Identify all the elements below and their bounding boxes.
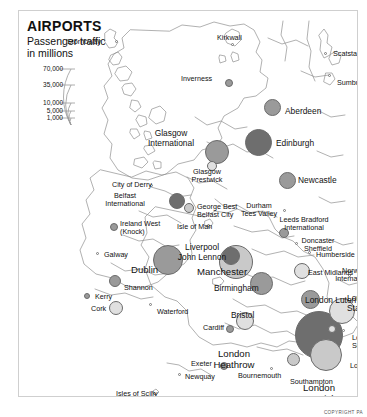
airport-marker-sumburgh[interactable] [328,74,331,77]
airport-label-edinburgh: Edinburgh [276,139,314,149]
airport-label-manchester: Manchester [197,267,247,278]
airport-label-dublin: Dublin [131,265,158,276]
airport-label-cork: Cork [91,305,106,313]
airport-label-cardiff: Cardiff [203,324,224,332]
airport-label-isles-of-scilly: Isles of Scilly [116,390,158,397]
airport-label-ireland-west-knock: Ireland West(Knock) [120,220,160,236]
airports-map-page: AIRPORTS Passenger traffic in millions [0,0,367,417]
airport-label-newcastle: Newcastle [298,176,337,186]
airport-label-kirkwall: Kirkwall [217,34,242,42]
map-frame: AIRPORTS Passenger traffic in millions [18,10,358,397]
airport-label-newquay: Newquay [185,373,215,381]
airport-label-glasgow-international: GlasgowInternational [126,129,216,148]
airport-marker-belfast-international[interactable] [169,193,185,209]
copyright-notice: COPYRIGHT PA [324,410,363,415]
airport-label-bristol: Bristol [231,311,254,321]
airport-label-southampton: Southampton [290,378,333,386]
airport-marker-george-best-belfast-city[interactable] [184,203,194,213]
airport-label-bournemouth: Bournemouth [238,372,281,380]
airport-label-london-southend: LondonSouthend [352,334,358,350]
airport-label-humberside: Humberside [316,251,355,259]
airport-label-sumburgh: Sumburgh [337,79,358,87]
airport-label-glasgow-prestwick: GlasgowPrestwick [162,168,252,184]
airport-label-isle-of-man: Isle of Man [177,223,212,231]
airport-marker-aberdeen[interactable] [264,99,281,116]
airport-label-city-of-derry: City of Derry [112,181,152,189]
airport-label-london-city: London City [350,362,358,370]
legend-label-70000: 70,000 [19,66,63,73]
airport-label-birmingham: Birmingham [214,284,259,294]
airport-label-aberdeen: Aberdeen [285,107,321,117]
airport-label-waterford: Waterford [157,308,188,316]
airport-label-kerry: Kerry [95,293,112,301]
airport-marker-cardiff[interactable] [226,325,234,333]
airport-label-belfast-international: BelfastInternational [80,192,170,208]
legend-label-35000: 35,000 [19,82,63,89]
legend-label-1000: 1,000 [19,115,63,122]
airport-label-inverness: Inverness [181,75,212,83]
airport-marker-london-southend[interactable] [342,329,345,332]
airport-marker-waterford[interactable] [149,303,152,306]
airport-label-stornoway: Stornoway [67,38,101,46]
page-title: AIRPORTS [27,18,102,34]
legend-label-10000: 10,000 [19,100,63,107]
airport-label-shannon: Shannon [124,284,153,292]
airport-marker-newcastle[interactable] [279,172,296,189]
airport-marker-edinburgh[interactable] [245,129,272,156]
airport-label-london-stansted: LondonStansted [347,294,358,313]
airport-marker-kirkwall[interactable] [231,43,234,46]
airport-label-norwich-international: NorwichInternational [310,267,358,283]
airport-marker-newquay[interactable] [178,373,181,376]
airport-marker-southampton[interactable] [287,353,300,366]
airport-marker-galway[interactable] [96,252,99,255]
airport-marker-london-gatwick[interactable] [310,339,342,371]
airport-label-scatsta: Scatsta [333,50,357,58]
airport-marker-ireland-west-knock[interactable] [110,223,118,231]
airport-label-exeter: Exeter [191,360,212,368]
airport-marker-london-city[interactable] [328,325,336,333]
subtitle-line-2: in millions [27,47,73,59]
airport-marker-scatsta[interactable] [324,52,327,55]
airport-label-leeds-bradford-international: Leeds BradfordInternational [259,216,349,232]
airport-marker-shannon[interactable] [109,275,121,287]
airport-marker-cork[interactable] [109,301,123,315]
airport-label-galway: Galway [104,251,128,259]
airport-marker-stornoway[interactable] [115,40,118,43]
airport-marker-inverness[interactable] [225,79,233,87]
airport-label-liverpool-john-lennon: LiverpoolJohn Lennon [157,243,247,262]
